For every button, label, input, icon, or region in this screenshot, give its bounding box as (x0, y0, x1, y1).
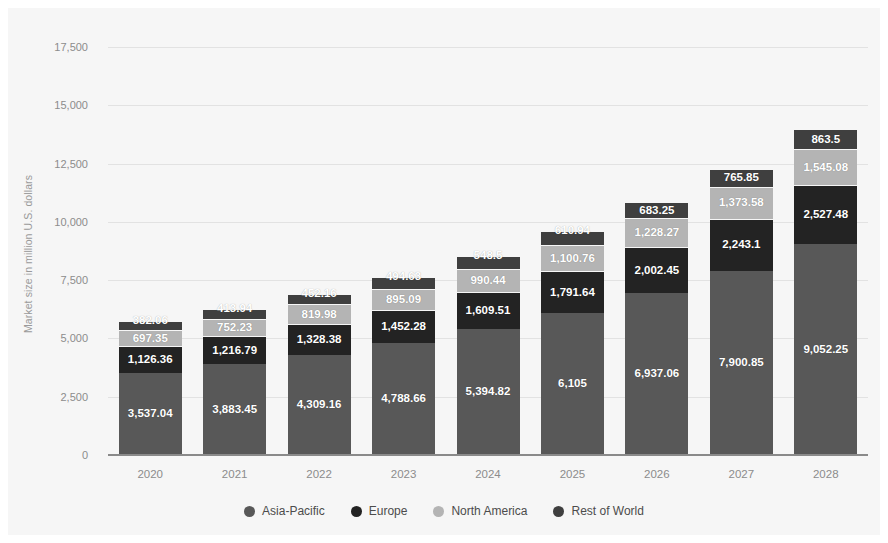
bar-group[interactable]: 3,883.451,216.79752.23413.94 (203, 309, 266, 455)
bar-segment[interactable]: 2,243.1 (710, 219, 773, 271)
bar-segment-value-label: 6,937.06 (634, 368, 679, 380)
legend-item-label: Rest of World (571, 504, 643, 518)
y-axis-tick-label: 7,500 (0, 274, 88, 286)
bar-segment[interactable]: 1,228.27 (625, 218, 688, 247)
bar-segment[interactable]: 2,002.45 (625, 247, 688, 294)
bar-segment[interactable]: 7,900.85 (710, 271, 773, 455)
y-axis-tick-label: 10,000 (0, 216, 88, 228)
plot-area: 3,537.041,126.36697.35382.063,883.451,21… (108, 47, 868, 455)
y-axis-tick-label: 17,500 (0, 41, 88, 53)
legend-item-label: Europe (369, 504, 408, 518)
chart-panel: Market size in million U.S. dollars 02,5… (8, 8, 880, 535)
bar-segment[interactable]: 683.25 (625, 202, 688, 218)
y-axis-tick-labels: 02,5005,0007,50010,00012,50015,00017,500 (8, 47, 98, 455)
y-axis-tick-label: 12,500 (0, 158, 88, 170)
y-axis-tick-label: 5,000 (0, 332, 88, 344)
bar-segment-value-label: 1,328.38 (297, 334, 342, 346)
bar-segment[interactable]: 4,788.66 (372, 343, 435, 455)
gridline (108, 164, 868, 165)
bar-group[interactable]: 3,537.041,126.36697.35382.06 (119, 321, 182, 455)
bar-segment-value-label: 1,100.76 (550, 253, 595, 265)
bar-segment[interactable]: 1,791.64 (541, 271, 604, 313)
bar-segment-value-label: 697.35 (133, 333, 168, 345)
bar-segment[interactable]: 1,100.76 (541, 245, 604, 271)
bar-segment-value-label: 3,883.45 (212, 404, 257, 416)
bar-segment[interactable]: 990.44 (457, 269, 520, 292)
chart-legend: Asia-PacificEuropeNorth AmericaRest of W… (8, 504, 880, 518)
bar-segment[interactable]: 610.94 (541, 231, 604, 245)
legend-item[interactable]: North America (433, 504, 527, 518)
bar-segment-value-label: 1,126.36 (128, 354, 173, 366)
bar-segment-value-label: 494.63 (386, 271, 421, 283)
bar-segment[interactable]: 9,052.25 (794, 244, 857, 455)
bar-segment-value-label: 2,243.1 (722, 239, 760, 251)
y-axis-tick-label: 2,500 (0, 391, 88, 403)
bar-segment[interactable]: 895.09 (372, 289, 435, 310)
bar-group[interactable]: 7,900.852,243.11,373.58765.85 (710, 169, 773, 455)
bar-segment-value-label: 548.5 (474, 250, 503, 262)
bar-group[interactable]: 5,394.821,609.51990.44548.5 (457, 256, 520, 455)
gridline (108, 105, 868, 106)
bar-group[interactable]: 6,937.062,002.451,228.27683.25 (625, 202, 688, 455)
legend-item[interactable]: Rest of World (553, 504, 643, 518)
bar-segment[interactable]: 3,883.45 (203, 364, 266, 455)
gridline (108, 47, 868, 48)
bar-segment-value-label: 990.44 (470, 275, 505, 287)
bar-segment-value-label: 683.25 (639, 205, 674, 217)
legend-item-label: North America (451, 504, 527, 518)
legend-item-label: Asia-Pacific (262, 504, 325, 518)
bar-group[interactable]: 9,052.252,527.481,545.08863.5 (794, 129, 857, 455)
bar-segment[interactable]: 1,609.51 (457, 292, 520, 330)
bar-segment-value-label: 4,788.66 (381, 393, 426, 405)
bar-segment-value-label: 3,537.04 (128, 408, 173, 420)
bar-segment[interactable]: 1,452.28 (372, 310, 435, 344)
x-axis-tick-label: 2023 (361, 468, 445, 480)
bar-segment[interactable]: 765.85 (710, 169, 773, 187)
legend-item[interactable]: Asia-Pacific (244, 504, 325, 518)
bar-segment[interactable]: 1,373.58 (710, 187, 773, 219)
x-axis-tick-label: 2027 (699, 468, 783, 480)
x-axis-tick-label: 2028 (784, 468, 868, 480)
bar-group[interactable]: 4,788.661,452.28895.09494.63 (372, 277, 435, 455)
bar-segment-value-label: 1,545.08 (803, 162, 848, 174)
y-axis-tick-label: 0 (0, 449, 88, 461)
bar-segment-value-label: 452.16 (302, 288, 337, 300)
legend-color-dot-icon (553, 506, 564, 517)
y-axis-tick-label: 15,000 (0, 99, 88, 111)
bar-segment[interactable]: 494.63 (372, 277, 435, 289)
bar-segment[interactable]: 3,537.04 (119, 373, 182, 455)
bar-segment[interactable]: 452.16 (288, 294, 351, 305)
bar-segment[interactable]: 382.06 (119, 321, 182, 330)
bar-segment[interactable]: 752.23 (203, 319, 266, 337)
legend-item[interactable]: Europe (351, 504, 408, 518)
bar-segment-value-label: 1,791.64 (550, 287, 595, 299)
x-axis-line (108, 454, 868, 456)
bar-segment[interactable]: 6,937.06 (625, 293, 688, 455)
bar-segment-value-label: 895.09 (386, 294, 421, 306)
bar-segment[interactable]: 5,394.82 (457, 329, 520, 455)
bar-segment[interactable]: 697.35 (119, 330, 182, 346)
x-axis-tick-label: 2024 (446, 468, 530, 480)
bar-segment[interactable]: 819.98 (288, 304, 351, 323)
bar-segment[interactable]: 548.5 (457, 256, 520, 269)
legend-color-dot-icon (433, 506, 444, 517)
bar-segment[interactable]: 4,309.16 (288, 355, 351, 455)
x-axis-tick-label: 2020 (108, 468, 192, 480)
bar-segment[interactable]: 1,328.38 (288, 324, 351, 355)
bar-segment[interactable]: 6,105 (541, 313, 604, 455)
x-axis-tick-label: 2021 (192, 468, 276, 480)
bar-segment[interactable]: 863.5 (794, 129, 857, 149)
bar-group[interactable]: 6,1051,791.641,100.76610.94 (541, 231, 604, 455)
legend-color-dot-icon (244, 506, 255, 517)
bar-segment[interactable]: 413.94 (203, 309, 266, 319)
bar-segment[interactable]: 1,126.36 (119, 346, 182, 372)
bar-group[interactable]: 4,309.161,328.38819.98452.16 (288, 294, 351, 455)
bar-segment[interactable]: 1,545.08 (794, 149, 857, 185)
bar-segment-value-label: 413.94 (217, 303, 252, 315)
chart-screenshot: Market size in million U.S. dollars 02,5… (0, 0, 888, 543)
legend-color-dot-icon (351, 506, 362, 517)
bar-segment[interactable]: 2,527.48 (794, 185, 857, 244)
bar-segment[interactable]: 1,216.79 (203, 336, 266, 364)
x-axis-tick-label: 2022 (277, 468, 361, 480)
bar-segment-value-label: 2,527.48 (803, 209, 848, 221)
